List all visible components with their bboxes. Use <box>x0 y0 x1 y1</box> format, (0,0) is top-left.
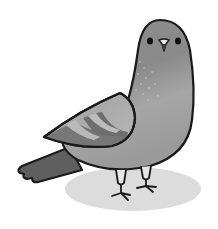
pigeon-illustration <box>0 0 218 229</box>
right-eye <box>175 37 181 44</box>
pigeon-svg <box>0 0 218 229</box>
left-eye <box>147 37 153 44</box>
ground-shadow <box>65 167 201 211</box>
